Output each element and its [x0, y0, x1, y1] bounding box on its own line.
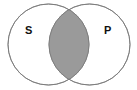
venn-diagram: S P	[0, 0, 137, 90]
set-s-label: S	[25, 24, 32, 36]
set-p-label: P	[104, 24, 111, 36]
